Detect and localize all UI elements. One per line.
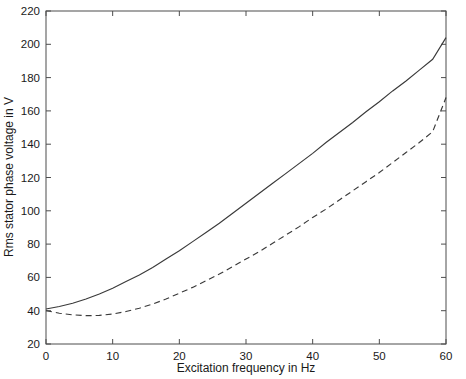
y-tick-label: 200: [21, 38, 40, 50]
axis-ticks: 2040608010012014016018020022001020304050…: [21, 5, 453, 362]
series-solid-curve: [46, 38, 446, 309]
y-tick-label: 80: [27, 238, 40, 250]
chart-figure: Rms stator phase voltage in V Excitation…: [0, 0, 466, 379]
y-tick-label: 20: [27, 338, 40, 350]
y-tick-label: 40: [27, 305, 40, 317]
y-tick-label: 120: [21, 172, 40, 184]
x-tick-label: 40: [306, 350, 319, 362]
x-tick-label: 50: [373, 350, 386, 362]
y-tick-label: 160: [21, 105, 40, 117]
y-tick-label: 140: [21, 138, 40, 150]
x-axis-title: Excitation frequency in Hz: [177, 361, 316, 375]
x-tick-label: 0: [43, 350, 49, 362]
y-axis-title: Rms stator phase voltage in V: [2, 97, 16, 257]
x-tick-label: 10: [106, 350, 119, 362]
chart-series: [46, 38, 446, 316]
y-tick-label: 180: [21, 72, 40, 84]
y-tick-label: 100: [21, 205, 40, 217]
x-tick-label: 30: [240, 350, 253, 362]
x-tick-label: 60: [440, 350, 453, 362]
y-axis-title-text: Rms stator phase voltage in V: [2, 97, 16, 257]
line-chart: Rms stator phase voltage in V Excitation…: [0, 0, 466, 379]
x-tick-label: 20: [173, 350, 186, 362]
y-tick-label: 220: [21, 5, 40, 17]
x-axis-title-text: Excitation frequency in Hz: [177, 361, 316, 375]
y-tick-label: 60: [27, 271, 40, 283]
series-dashed-curve: [46, 98, 446, 316]
plot-frame: [46, 11, 446, 344]
